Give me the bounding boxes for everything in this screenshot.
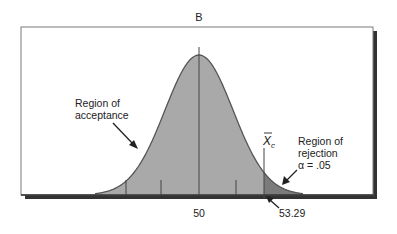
normal-distribution-figure: B Xc Region of acceptance Region of reje… [0,0,397,234]
critical-value-label: 53.29 [279,207,305,219]
figure-title: B [195,11,202,23]
critical-value-arrow [270,200,279,208]
acceptance-label: Region of acceptance [75,97,129,121]
mean-label: 50 [193,207,205,219]
